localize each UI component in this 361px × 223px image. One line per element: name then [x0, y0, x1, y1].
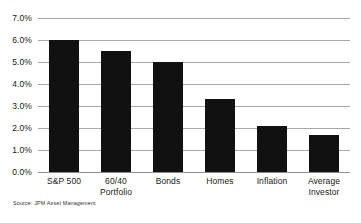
- x-tick-label: AverageInvestor: [298, 176, 350, 197]
- y-tick-label: 0.0%: [12, 167, 32, 177]
- bar: [257, 126, 287, 172]
- y-tick-label: 3.0%: [12, 101, 32, 111]
- x-tick-label: Inflation: [246, 176, 298, 187]
- x-tick-label-line: Portfolio: [90, 187, 142, 198]
- y-tick-label: 7.0%: [12, 13, 32, 23]
- x-tick-label: Homes: [194, 176, 246, 187]
- x-tick-label: S&P 500: [38, 176, 90, 187]
- source-note: Source: JPM Asset Management: [13, 200, 96, 206]
- plot-area: [38, 18, 350, 172]
- x-tick-label-line: 60/40: [105, 176, 127, 186]
- x-tick-label-line: Average: [308, 176, 340, 186]
- x-tick-label: Bonds: [142, 176, 194, 187]
- y-tick-label: 4.0%: [12, 79, 32, 89]
- y-axis: 0.0%1.0%2.0%3.0%4.0%5.0%6.0%7.0%: [0, 18, 36, 172]
- y-tick-label: 5.0%: [12, 57, 32, 67]
- x-tick-label-line: Homes: [206, 176, 233, 186]
- bar: [101, 51, 131, 172]
- x-tick-label-line: S&P 500: [47, 176, 81, 186]
- bar: [309, 135, 339, 172]
- gridline: [38, 172, 350, 173]
- x-tick-label-line: Inflation: [257, 176, 288, 186]
- bar-chart: 0.0%1.0%2.0%3.0%4.0%5.0%6.0%7.0% S&P 500…: [0, 0, 361, 223]
- bar: [153, 62, 183, 172]
- bar: [49, 40, 79, 172]
- y-tick-label: 2.0%: [12, 123, 32, 133]
- x-tick-label-line: Investor: [298, 187, 350, 198]
- x-tick-label: 60/40Portfolio: [90, 176, 142, 197]
- bars: [38, 18, 350, 172]
- x-tick-label-line: Bonds: [156, 176, 181, 186]
- bar: [205, 99, 235, 172]
- y-tick-label: 6.0%: [12, 35, 32, 45]
- y-tick-label: 1.0%: [12, 145, 32, 155]
